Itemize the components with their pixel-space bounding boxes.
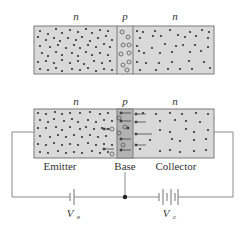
biased-transistor: n p n: [34, 95, 214, 172]
emitter-voltage-label: V e: [67, 207, 80, 221]
top-emitter-type-label: n: [73, 10, 79, 22]
bottom-collector-type-label: n: [172, 95, 178, 107]
emitter-battery-icon: [70, 189, 74, 205]
bottom-emitter-type-label: n: [73, 95, 79, 107]
svg-text:V: V: [67, 207, 75, 219]
top-collector-type-label: n: [172, 10, 178, 22]
collector-voltage-label: V c: [163, 207, 176, 221]
npn-transistor-diagram: n p n n p n: [0, 0, 250, 229]
collector-battery-icon: [155, 189, 178, 205]
top-base-type-label: p: [121, 10, 128, 22]
collector-label: Collector: [156, 160, 197, 172]
base-junction-node: [123, 195, 127, 199]
unbiased-transistor: n p n: [34, 10, 214, 74]
emitter-label: Emitter: [44, 160, 77, 172]
svg-text:e: e: [77, 213, 80, 221]
svg-text:c: c: [173, 213, 176, 221]
svg-text:V: V: [163, 207, 171, 219]
bottom-base-type-label: p: [121, 95, 128, 107]
base-label: Base: [114, 160, 136, 172]
